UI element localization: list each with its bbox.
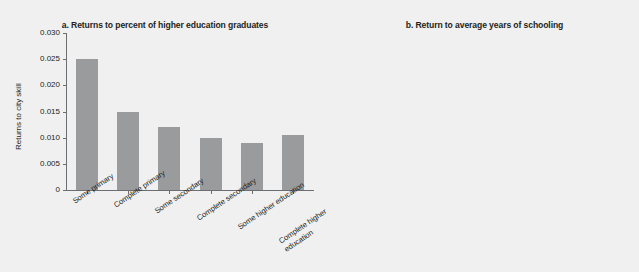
- panel-a-y-tick-label: 0.030: [0, 28, 60, 37]
- panel-a-y-tick-label: 0.005: [0, 159, 60, 168]
- panel-a-y-tick-label: 0.010: [0, 133, 60, 142]
- panel-a-x-tick: [252, 191, 253, 194]
- bar-1: [117, 112, 139, 191]
- panel-a-y-tick-label: 0: [0, 185, 60, 194]
- panel-a-y-tick: [63, 138, 66, 139]
- panel-a-y-tick-label: 0.020: [0, 80, 60, 89]
- bar-0: [76, 59, 98, 190]
- panel-a-y-tick: [63, 59, 66, 60]
- panel-a-plot-area: [66, 33, 314, 190]
- panel-a-bar-chart: a. Returns to percent of higher educatio…: [0, 0, 330, 272]
- panel-a-y-tick: [63, 164, 66, 165]
- panel-a-x-tick: [169, 191, 170, 194]
- panel-b-title: b. Return to average years of schooling: [330, 20, 639, 30]
- panel-a-y-tick: [63, 190, 66, 191]
- panel-a-y-tick: [63, 85, 66, 86]
- panel-a-x-tick: [211, 191, 212, 194]
- panel-a-x-label-5: Complete highereducation: [277, 207, 334, 254]
- panel-b-line-chart: b. Return to average years of schooling …: [330, 0, 639, 272]
- panel-a-y-tick-label: 0.025: [0, 54, 60, 63]
- panel-a-y-tick: [63, 33, 66, 34]
- figure-container: a. Returns to percent of higher educatio…: [0, 0, 639, 272]
- panel-a-y-tick: [63, 112, 66, 113]
- panel-a-y-axis-line: [66, 33, 67, 190]
- panel-a-y-tick-label: 0.015: [0, 107, 60, 116]
- bar-2: [158, 127, 180, 190]
